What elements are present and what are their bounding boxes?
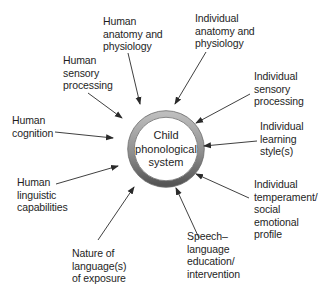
label-individual-temperament: Individual temperament/ social emotional… — [254, 178, 318, 241]
arrow-individual-anatomy — [175, 52, 206, 104]
arrow-human-anatomy — [128, 53, 140, 104]
label-individual-anatomy: Individual anatomy and physiology — [195, 12, 255, 50]
label-human-linguistic: Human linguistic capabilities — [17, 176, 68, 214]
arrow-individual-sensory — [196, 94, 250, 123]
label-human-anatomy: Human anatomy and physiology — [103, 15, 163, 53]
label-nature-of-language: Nature of language(s) of exposure — [72, 247, 126, 285]
arrow-human-sensory — [88, 93, 122, 118]
label-individual-learning: Individual learning style(s) — [260, 120, 303, 158]
influences-diagram: Child phonological system Human anatomy … — [0, 0, 328, 294]
arrow-human-cognition — [55, 132, 113, 138]
arrow-nature-of-language — [98, 187, 134, 240]
label-individual-sensory: Individual sensory processing — [254, 70, 304, 108]
arrow-individual-temperament — [196, 174, 249, 198]
arrow-individual-learning — [204, 141, 257, 146]
label-human-cognition: Human cognition — [12, 114, 53, 139]
label-human-sensory: Human sensory processing — [63, 54, 113, 92]
label-speech-language-education: Speech– language education/ intervention — [187, 230, 240, 280]
center-label-child-phonological-system: Child phonological system — [126, 129, 206, 170]
